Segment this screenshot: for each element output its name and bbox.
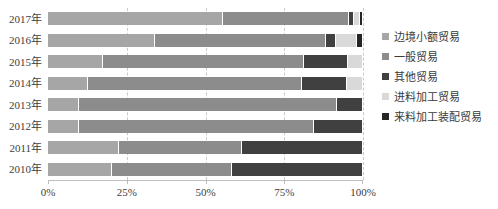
bar-segment[interactable]: [48, 77, 88, 90]
y-tick-label: 2011年: [0, 142, 42, 154]
bar-rows: [48, 8, 363, 180]
tick-mark: [48, 180, 49, 184]
x-axis-ticks: [48, 180, 363, 184]
bar-row[interactable]: [48, 12, 363, 25]
bar-row[interactable]: [48, 163, 363, 176]
bar-segment[interactable]: [304, 55, 348, 68]
bar-segment[interactable]: [48, 12, 223, 25]
legend-swatch-icon: [382, 33, 389, 40]
bar-segment[interactable]: [79, 98, 337, 111]
gridline: [363, 8, 365, 180]
bar-segment[interactable]: [103, 55, 304, 68]
bar-segment[interactable]: [48, 163, 112, 176]
bar-segment[interactable]: [348, 55, 363, 68]
bar-segment[interactable]: [360, 12, 363, 25]
bar-segment[interactable]: [119, 141, 242, 154]
bar-row[interactable]: [48, 141, 363, 154]
bar-segment[interactable]: [88, 77, 302, 90]
bar-segment[interactable]: [79, 120, 314, 133]
x-tick-label: 75%: [274, 186, 294, 198]
legend-label: 一般贸易: [394, 48, 438, 64]
legend-item[interactable]: 来料加工装配贸易: [382, 106, 494, 126]
x-tick-label: 25%: [117, 186, 137, 198]
bar-segment[interactable]: [48, 141, 119, 154]
bar-segment[interactable]: [48, 120, 79, 133]
bar-segment[interactable]: [302, 77, 347, 90]
chart-legend: 边境小额贸易一般贸易其他贸易进料加工贸易来料加工装配贸易: [382, 26, 494, 126]
bar-row[interactable]: [48, 98, 363, 111]
y-tick-label: 2010年: [0, 163, 42, 175]
tick-mark: [284, 180, 285, 184]
y-tick-label: 2015年: [0, 56, 42, 68]
x-tick-label: 100%: [350, 186, 376, 198]
bar-segment[interactable]: [223, 12, 349, 25]
legend-label: 来料加工装配贸易: [394, 108, 482, 124]
bar-row[interactable]: [48, 120, 363, 133]
y-axis-labels: 2017年2016年2015年2014年2013年2012年2011年2010年: [0, 8, 44, 180]
legend-item[interactable]: 其他贸易: [382, 66, 494, 86]
x-tick-label: 0%: [41, 186, 56, 198]
tick-mark: [206, 180, 207, 184]
chart-container: 2017年2016年2015年2014年2013年2012年2011年2010年…: [0, 0, 498, 209]
tick-mark: [127, 180, 128, 184]
bar-row[interactable]: [48, 55, 363, 68]
y-tick-label: 2014年: [0, 77, 42, 89]
bar-segment[interactable]: [155, 34, 325, 47]
bar-segment[interactable]: [337, 98, 363, 111]
legend-swatch-icon: [382, 93, 389, 100]
bar-segment[interactable]: [48, 98, 79, 111]
y-tick-label: 2012年: [0, 120, 42, 132]
legend-item[interactable]: 进料加工贸易: [382, 86, 494, 106]
y-tick-label: 2017年: [0, 13, 42, 25]
tick-mark: [362, 180, 363, 184]
bar-row[interactable]: [48, 77, 363, 90]
bar-segment[interactable]: [336, 34, 357, 47]
legend-item[interactable]: 边境小额贸易: [382, 26, 494, 46]
y-tick-label: 2013年: [0, 99, 42, 111]
bar-segment[interactable]: [48, 34, 155, 47]
bar-segment[interactable]: [48, 55, 103, 68]
bar-segment[interactable]: [242, 141, 363, 154]
bar-segment[interactable]: [326, 34, 336, 47]
legend-swatch-icon: [382, 113, 389, 120]
plot-area: [48, 8, 363, 180]
x-axis-tick-labels: 0%25%50%75%100%: [48, 186, 363, 202]
x-tick-label: 50%: [195, 186, 215, 198]
bar-segment[interactable]: [347, 77, 363, 90]
legend-swatch-icon: [382, 53, 389, 60]
legend-label: 边境小额贸易: [394, 28, 460, 44]
bar-segment[interactable]: [314, 120, 363, 133]
bar-segment[interactable]: [357, 34, 363, 47]
legend-item[interactable]: 一般贸易: [382, 46, 494, 66]
bar-segment[interactable]: [232, 163, 363, 176]
bar-row[interactable]: [48, 34, 363, 47]
legend-label: 其他贸易: [394, 68, 438, 84]
legend-swatch-icon: [382, 73, 389, 80]
y-tick-label: 2016年: [0, 34, 42, 46]
bar-segment[interactable]: [112, 163, 232, 176]
legend-label: 进料加工贸易: [394, 88, 460, 104]
